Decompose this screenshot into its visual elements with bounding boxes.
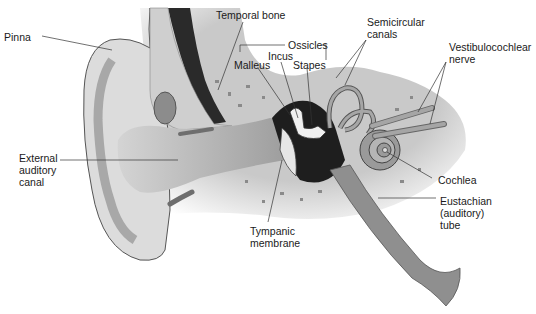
label-external-auditory-canal: External auditory canal — [19, 152, 58, 188]
label-pinna: Pinna — [4, 31, 31, 43]
label-eustachian-tube: Eustachian (auditory) tube — [440, 195, 492, 231]
label-vestibulocochlear-nerve: Vestibulocochlear nerve — [449, 41, 531, 65]
label-cochlea: Cochlea — [438, 174, 477, 186]
label-ossicles: Ossicles — [288, 39, 328, 51]
label-stapes: Stapes — [293, 59, 326, 71]
label-incus: Incus — [268, 50, 293, 62]
cartilage-oval — [154, 92, 176, 124]
label-semicircular-canals: Semicircular canals — [367, 16, 425, 40]
label-temporal-bone: Temporal bone — [216, 9, 285, 21]
ear-anatomy-diagram: Pinna Temporal bone Ossicles Incus Malle… — [0, 0, 536, 314]
label-malleus: Malleus — [234, 59, 270, 71]
label-tympanic-membrane: Tympanic membrane — [250, 225, 300, 249]
